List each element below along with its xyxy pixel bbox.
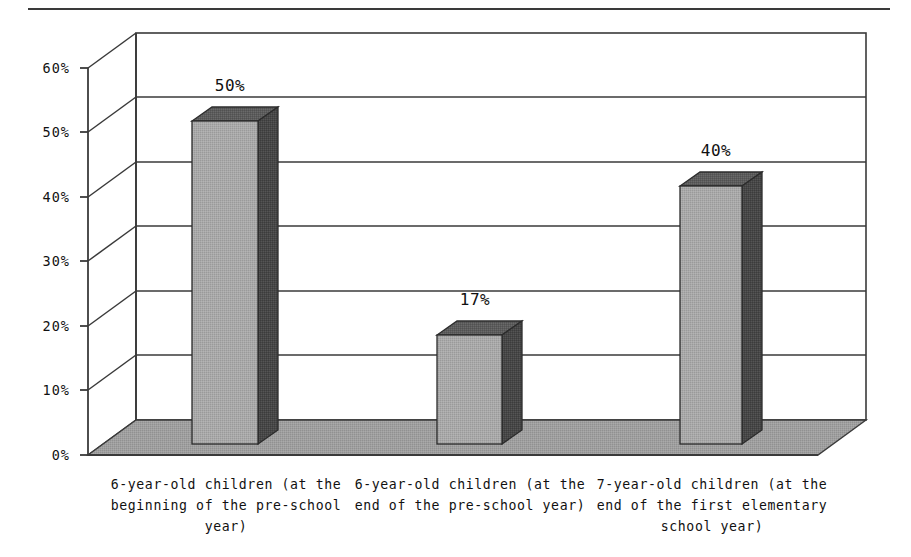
bar-column-1[interactable] — [192, 107, 278, 444]
y-tick-label-30: 30% — [10, 253, 70, 269]
bar-column-2[interactable] — [437, 321, 522, 444]
bar-value-label-3: 40% — [661, 141, 771, 160]
category-label-3-line1: 7-year-old children (at the — [562, 474, 862, 495]
bar-value-label-1: 50% — [175, 76, 285, 95]
bar-chart-figure: 60% 50% 40% 30% 20% 10% 0% 50% 17% 40% 6… — [0, 0, 911, 557]
y-tick-label-40: 40% — [10, 189, 70, 205]
y-tick-label-0: 0% — [10, 447, 70, 463]
category-label-3-line2: end of the first elementary — [562, 495, 862, 516]
category-label-1-line3: year) — [76, 516, 376, 537]
category-label-3: 7-year-old children (at the end of the f… — [562, 474, 862, 537]
y-axis-ticks — [80, 68, 88, 455]
category-label-3-line3: school year) — [562, 516, 862, 537]
bar-column-3[interactable] — [680, 172, 762, 444]
y-tick-label-20: 20% — [10, 318, 70, 334]
y-tick-label-50: 50% — [10, 124, 70, 140]
y-tick-label-60: 60% — [10, 60, 70, 76]
bar-value-label-2: 17% — [420, 290, 530, 309]
y-tick-label-10: 10% — [10, 382, 70, 398]
depth-connectors — [88, 33, 136, 455]
